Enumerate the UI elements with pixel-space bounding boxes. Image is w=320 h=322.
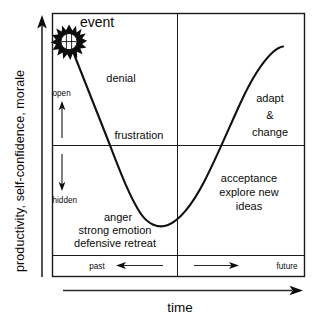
event-label: event [80, 14, 114, 30]
arrow-left-icon [116, 262, 163, 269]
y-axis-arrow [37, 15, 47, 277]
denial-label: denial [106, 72, 135, 84]
acceptance-block: acceptance explore new ideas [219, 172, 278, 212]
arrow-right-icon [194, 262, 239, 269]
open-hidden-scale: open hidden [53, 89, 78, 205]
adapt-change-block: adapt & change [252, 92, 288, 138]
diagram-canvas: productivity, self-confidence, morale ev… [0, 0, 320, 322]
change-curve-diagram: productivity, self-confidence, morale ev… [0, 0, 320, 322]
x-axis-arrow [63, 286, 303, 296]
arrow-down-icon [59, 154, 66, 191]
frustration-label: frustration [115, 129, 164, 141]
past-label: past [89, 262, 105, 271]
adapt-line-1: adapt [256, 92, 284, 104]
past-future-scale: past future [89, 262, 298, 271]
arrow-up-icon [59, 101, 66, 138]
future-label: future [277, 262, 298, 271]
open-label: open [53, 89, 72, 98]
acceptance-line-3: ideas [236, 200, 263, 212]
anger-line-2: strong emotion [79, 224, 152, 236]
anger-line-3: defensive retreat [74, 237, 156, 249]
y-axis-label: productivity, self-confidence, morale [13, 70, 27, 272]
acceptance-line-2: explore new [219, 186, 278, 198]
adapt-line-3: change [252, 126, 288, 138]
acceptance-line-1: acceptance [221, 172, 277, 184]
adapt-line-2: & [266, 109, 274, 121]
anger-line-1: anger [104, 211, 132, 223]
x-axis-label: time [167, 300, 193, 315]
hidden-label: hidden [53, 196, 78, 205]
